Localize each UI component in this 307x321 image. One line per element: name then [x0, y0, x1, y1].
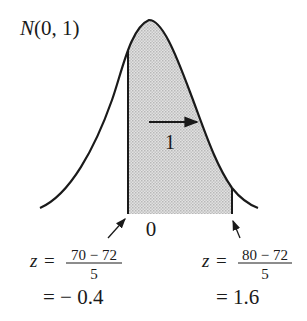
sigma-label: 1 [165, 131, 175, 153]
left-result: = − 0.4 [43, 285, 104, 309]
right-z-var: z [201, 250, 210, 271]
distribution-symbol: N [19, 16, 35, 40]
right-bound-formula: z = 80 − 72 5 = 1.6 [201, 247, 292, 309]
right-pointer-arrow-icon [233, 221, 240, 238]
left-denominator: 5 [90, 266, 98, 282]
distribution-params: (0, 1) [34, 16, 80, 40]
left-numerator: 70 − 72 [71, 247, 117, 263]
shaded-probability-region [128, 20, 232, 214]
left-equals: = [44, 250, 55, 271]
right-numerator: 80 − 72 [242, 247, 288, 263]
left-z-var: z [29, 250, 38, 271]
left-bound-formula: z = 70 − 72 5 = − 0.4 [29, 247, 122, 309]
left-pointer-arrow-icon [108, 219, 125, 238]
right-result: = 1.6 [216, 285, 259, 309]
normal-distribution-diagram: 1 N(0, 1) 0 z = 70 − 72 5 = − 0.4 z = 80… [0, 0, 307, 321]
center-tick-label: 0 [146, 217, 157, 241]
right-denominator: 5 [261, 266, 269, 282]
right-equals: = [216, 250, 227, 271]
distribution-title: N(0, 1) [19, 16, 80, 40]
